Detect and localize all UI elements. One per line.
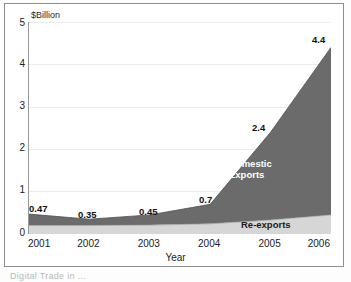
y-axis-label: $Billion	[31, 10, 60, 20]
x-tick-2005: 2005	[258, 238, 280, 249]
x-axis-ticks: 2001 2002 2003 2004 2005 2006	[28, 238, 330, 252]
y-tick-2: 2	[1, 143, 25, 153]
series-label-domestic-line1: Domestic	[229, 158, 272, 169]
y-axis-ticks: 5 4 3 2 1 0	[0, 0, 25, 260]
y-tick-3: 3	[1, 101, 25, 111]
x-axis-label: Year	[0, 252, 351, 263]
x-tick-2004: 2004	[198, 238, 220, 249]
series-label-domestic-exports: Domestic Exports	[229, 158, 272, 180]
data-label-2006: 4.4	[312, 34, 325, 45]
y-tick-1: 1	[1, 185, 25, 195]
stacked-area-series	[29, 22, 331, 234]
series-label-re-exports: Re-exports	[241, 219, 291, 230]
area-domestic-exports	[29, 47, 331, 225]
plot-area: Domestic Exports Re-exports	[28, 22, 330, 234]
data-label-2001: 0.47	[29, 203, 48, 214]
x-tick-2001: 2001	[28, 238, 50, 249]
x-tick-2006: 2006	[308, 238, 330, 249]
x-tick-2003: 2003	[138, 238, 160, 249]
y-tick-5: 5	[1, 18, 25, 28]
data-label-2003: 0.45	[139, 206, 158, 217]
figure-container: $Billion 5 4 3 2 1 0 Domestic Exports Re…	[0, 0, 351, 282]
data-label-2002: 0.35	[78, 209, 97, 220]
figure-caption: Digital Trade in ...	[10, 271, 210, 282]
y-tick-0: 0	[1, 228, 25, 238]
series-label-domestic-line2: Exports	[229, 169, 264, 180]
x-tick-2002: 2002	[77, 238, 99, 249]
data-label-2005: 2.4	[252, 122, 265, 133]
data-label-2004: 0.7	[199, 194, 212, 205]
y-tick-4: 4	[1, 59, 25, 69]
